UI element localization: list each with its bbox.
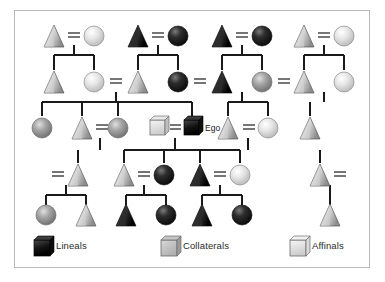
marriage-bar bbox=[96, 125, 108, 129]
node-male-collateral[interactable] bbox=[310, 164, 330, 186]
node-male-lineal[interactable] bbox=[192, 204, 212, 226]
node-female-affinal[interactable] bbox=[334, 26, 354, 46]
node-female-lineal[interactable] bbox=[156, 205, 176, 225]
node-male-collateral[interactable] bbox=[128, 71, 148, 93]
node-male-collateral[interactable] bbox=[320, 204, 340, 226]
node-male-lineal[interactable] bbox=[128, 25, 148, 47]
legend-label-affinals: Affinals bbox=[312, 240, 344, 251]
node-male-collateral[interactable] bbox=[68, 164, 88, 186]
node-female-lineal[interactable] bbox=[154, 165, 174, 185]
node-male-collateral[interactable] bbox=[76, 204, 96, 226]
node-female-collateral[interactable] bbox=[36, 205, 56, 225]
node-female-affinal[interactable] bbox=[334, 72, 354, 92]
marriage-bar bbox=[194, 79, 206, 83]
node-male-collateral[interactable] bbox=[218, 117, 238, 139]
node-male-lineal[interactable] bbox=[212, 25, 232, 47]
node-female-lineal[interactable] bbox=[252, 26, 272, 46]
legend-swatch-lineals-icon bbox=[34, 236, 54, 256]
node-female-lineal[interactable] bbox=[168, 72, 188, 92]
marriage-bar bbox=[278, 79, 290, 83]
node-female-collateral[interactable] bbox=[252, 72, 272, 92]
node-female-affinal[interactable] bbox=[258, 118, 278, 138]
legend-label-lineals: Lineals bbox=[56, 240, 87, 251]
node-female-affinal[interactable] bbox=[230, 165, 250, 185]
node-male-lineal[interactable] bbox=[116, 204, 136, 226]
marriage-bar bbox=[236, 33, 248, 37]
node-female-lineal[interactable] bbox=[168, 26, 188, 46]
node-male-lineal[interactable] bbox=[190, 164, 210, 186]
marriage-bar bbox=[52, 172, 64, 176]
marriage-bar bbox=[334, 172, 346, 176]
node-male-collateral[interactable] bbox=[44, 25, 64, 47]
node-ego-lineal[interactable] bbox=[184, 116, 203, 135]
node-male-collateral[interactable] bbox=[72, 117, 92, 139]
marriage-bar bbox=[243, 125, 255, 129]
marriage-bar bbox=[318, 33, 330, 37]
marriage-bar bbox=[152, 33, 164, 37]
ego-label: Ego bbox=[205, 123, 220, 133]
node-female-collateral[interactable] bbox=[108, 118, 128, 138]
node-male-collateral[interactable] bbox=[294, 71, 314, 93]
legend-swatch-collaterals-icon bbox=[161, 236, 181, 256]
node-male-lineal[interactable] bbox=[212, 71, 232, 93]
node-male-collateral[interactable] bbox=[114, 164, 134, 186]
marriage-bar bbox=[68, 33, 80, 37]
marriage-bar bbox=[214, 172, 226, 176]
node-male-collateral[interactable] bbox=[300, 117, 320, 139]
node-female-affinal[interactable] bbox=[84, 26, 104, 46]
node-male-collateral[interactable] bbox=[44, 71, 64, 93]
node-female-affinal[interactable] bbox=[84, 72, 104, 92]
marriage-bars bbox=[52, 33, 346, 176]
legend-swatch-affinals-icon bbox=[290, 236, 310, 256]
node-female-collateral[interactable] bbox=[32, 118, 52, 138]
node-female-lineal[interactable] bbox=[232, 205, 252, 225]
node-male-collateral[interactable] bbox=[294, 25, 314, 47]
marriage-bar bbox=[138, 172, 150, 176]
node-ego-spouse-affinal[interactable] bbox=[150, 116, 169, 135]
legend-label-collaterals: Collaterals bbox=[183, 240, 229, 251]
marriage-bar bbox=[110, 79, 122, 83]
marriage-bar bbox=[170, 125, 181, 129]
